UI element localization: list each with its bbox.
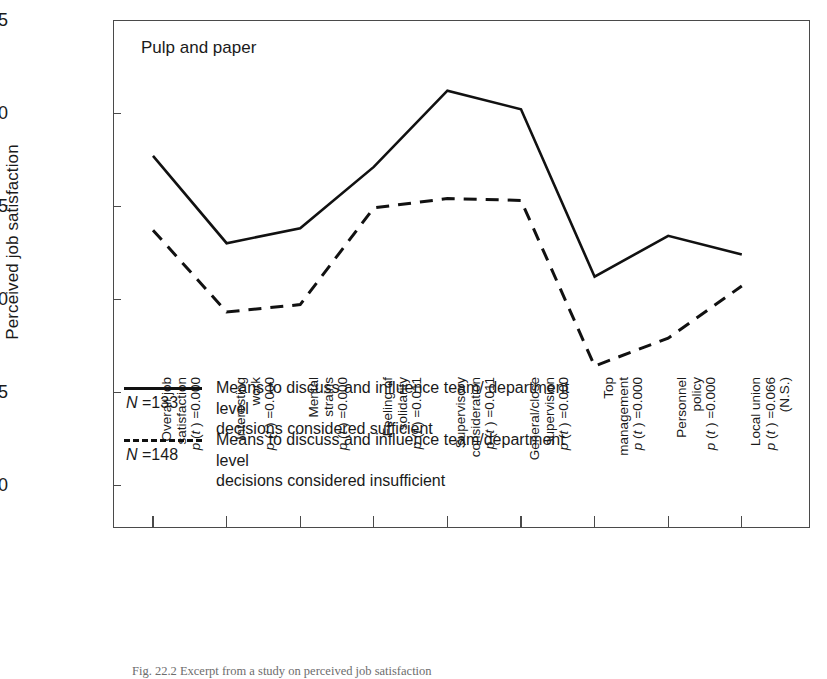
y-tick-mark bbox=[113, 392, 121, 393]
legend-item-insufficient: N =148 Means to discuss and influence te… bbox=[124, 430, 594, 482]
y-tick-label-2-5: 2.5 bbox=[0, 383, 8, 401]
y-tick-label-3-5: 3.5 bbox=[0, 197, 8, 215]
figure-caption: Fig. 22.2 Excerpt from a study on percei… bbox=[132, 664, 432, 679]
y-tick-label-4-0: 4.0 bbox=[0, 104, 8, 122]
y-tick-mark bbox=[113, 485, 121, 486]
x-tick-mark-4 bbox=[373, 516, 374, 528]
x-tick-label-9: Local unionp (t ) =0.066(N.S.) bbox=[749, 377, 793, 537]
y-axis-title: Perceived job satisfaction bbox=[3, 77, 23, 407]
x-tick-label-8: Personnelpolicyp (t ) =0.000 bbox=[675, 377, 719, 537]
x-tick-mark-5 bbox=[447, 516, 448, 528]
x-tick-mark-9 bbox=[741, 516, 742, 528]
x-tick-label-7: Topmanagementp (t ) =0.000 bbox=[602, 377, 646, 537]
legend-n-insufficient: N =148 bbox=[126, 446, 178, 464]
y-tick-mark bbox=[113, 113, 121, 114]
x-tick-mark-3 bbox=[300, 516, 301, 528]
y-tick-label-3-0: 3.0 bbox=[0, 290, 8, 308]
legend-key-solid-line-icon bbox=[124, 387, 202, 390]
y-tick-label-2-0: 2.0 bbox=[0, 476, 8, 494]
y-tick-label-4-5: 4.5 bbox=[0, 11, 8, 29]
y-tick-mark bbox=[113, 206, 121, 207]
x-tick-mark-1 bbox=[152, 516, 153, 528]
y-tick-mark bbox=[113, 299, 121, 300]
legend-item-sufficient: N =133 Means to discuss and influence te… bbox=[124, 378, 594, 430]
legend: N =133 Means to discuss and influence te… bbox=[124, 378, 594, 482]
x-tick-mark-7 bbox=[594, 516, 595, 528]
legend-label-insufficient: Means to discuss and influence team/depa… bbox=[216, 430, 594, 492]
panel-title: Pulp and paper bbox=[141, 38, 256, 58]
x-tick-mark-2 bbox=[226, 516, 227, 528]
x-tick-mark-8 bbox=[668, 516, 669, 528]
legend-key-dashed-line-icon bbox=[124, 439, 202, 442]
legend-n-sufficient: N =133 bbox=[126, 394, 178, 412]
x-tick-mark-6 bbox=[520, 516, 521, 528]
